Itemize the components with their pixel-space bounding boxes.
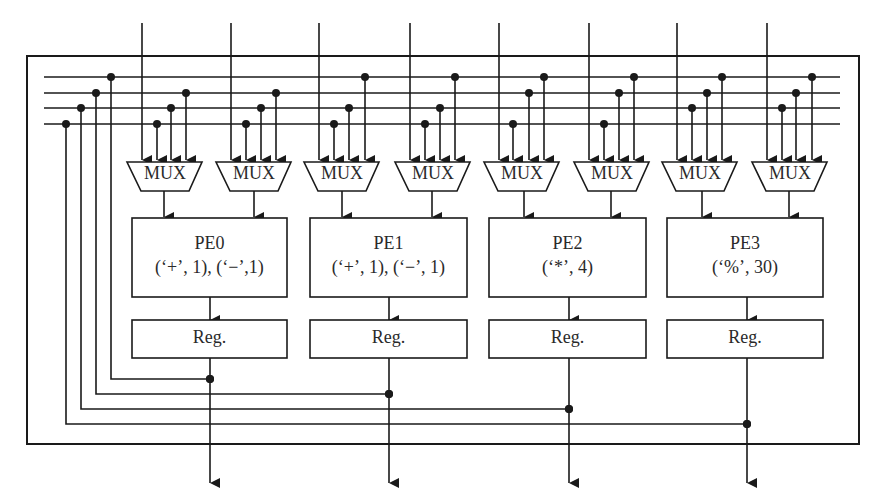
- mux-3-label: MUX: [395, 163, 471, 184]
- pe3-name: PE3: [667, 233, 823, 254]
- feedback-bus: [44, 77, 840, 124]
- mux-7-label: MUX: [752, 163, 828, 184]
- pe3-ops: (‘%’, 30): [667, 257, 823, 278]
- mux-to-pe-arrows: [164, 191, 789, 217]
- mux-2-label: MUX: [304, 163, 380, 184]
- reg3-label: Reg.: [667, 327, 823, 348]
- pe2-name: PE2: [489, 233, 646, 254]
- junction-dots: [206, 375, 751, 428]
- pe1-ops: (‘+’, 1), (‘−’, 1): [310, 257, 467, 278]
- pe0-ops: (‘+’, 1), (‘−’,1): [132, 257, 287, 278]
- mux-1-label: MUX: [216, 163, 292, 184]
- mux-5-label: MUX: [574, 163, 650, 184]
- pe0-name: PE0: [132, 233, 287, 254]
- pe1-name: PE1: [310, 233, 467, 254]
- reg0-label: Reg.: [132, 327, 287, 348]
- bus-taps: [153, 73, 816, 160]
- pe2-ops: (‘*’, 4): [489, 257, 646, 278]
- reg2-label: Reg.: [489, 327, 646, 348]
- pe-to-reg-arrows: [210, 297, 747, 320]
- mux-0-label: MUX: [127, 163, 203, 184]
- mux-4-label: MUX: [484, 163, 560, 184]
- outputs: [210, 358, 747, 483]
- mux-6-label: MUX: [662, 163, 738, 184]
- reg1-label: Reg.: [310, 327, 467, 348]
- pe-array-diagram: MUX MUX MUX MUX MUX MUX MUX MUX PE0 (‘+’…: [0, 0, 878, 502]
